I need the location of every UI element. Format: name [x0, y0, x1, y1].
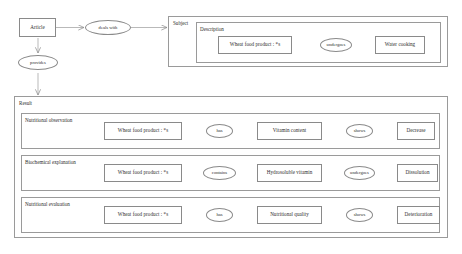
result-subject-node[interactable]: Wheat food product : *s — [104, 206, 182, 224]
article-node[interactable]: Article — [19, 18, 56, 37]
result-object2-node[interactable]: Dissolution — [397, 164, 438, 182]
result-row-label: Nutritional evaluation — [25, 201, 70, 207]
result-relation2-label[interactable]: shows — [346, 208, 373, 222]
result-relation2-label[interactable]: undergoes — [344, 166, 375, 180]
result-object1-node[interactable]: Nutritional quality — [257, 206, 322, 224]
result-subject-node[interactable]: Wheat food product : *s — [104, 122, 182, 140]
subject-panel-label: Subject — [173, 20, 188, 26]
result-object1-node[interactable]: Vitamin content — [257, 122, 322, 140]
description-object-node[interactable]: Water cooking — [375, 36, 425, 54]
result-relation1-label[interactable]: contains — [203, 166, 236, 180]
result-row-label: Nutritional observation — [25, 117, 72, 123]
deals-with-edge-label[interactable]: deals with — [85, 20, 131, 35]
result-subject-node[interactable]: Wheat food product : *s — [104, 164, 182, 182]
provides-edge-label[interactable]: provides — [18, 55, 58, 70]
result-relation1-label[interactable]: has — [206, 124, 233, 138]
description-subject-node[interactable]: Wheat food product : *s — [218, 36, 292, 54]
description-relation-label[interactable]: undergoes — [320, 38, 352, 52]
result-panel-label: Result — [19, 100, 32, 106]
result-row-label: Biochemical explanation — [25, 159, 76, 165]
diagram-canvas: Article deals with provides Subject Desc… — [0, 0, 462, 254]
result-object2-node[interactable]: Deterioration — [397, 206, 440, 224]
result-object2-node[interactable]: Decrease — [397, 122, 435, 140]
result-object1-node[interactable]: Hydrosoluble vitamin — [257, 164, 322, 182]
result-relation2-label[interactable]: shows — [346, 124, 373, 138]
result-relation1-label[interactable]: has — [206, 208, 233, 222]
description-panel-label: Description — [200, 26, 224, 32]
